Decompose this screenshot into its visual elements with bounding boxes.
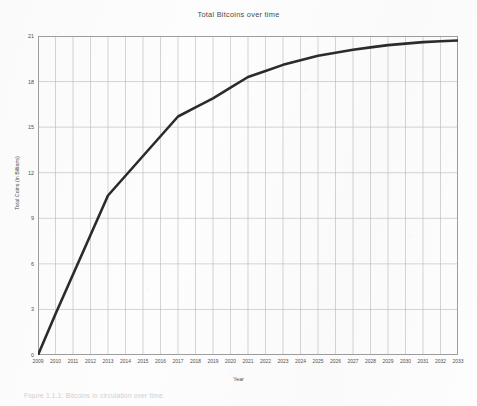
x-axis-tick-label: 2026 <box>325 359 347 364</box>
x-axis-tick-label: 2024 <box>290 359 312 364</box>
y-axis-tick-label: 18 <box>18 79 34 85</box>
x-axis-tick-label: 2018 <box>185 359 207 364</box>
figure-caption: Figure 1.1.1: Bitcoins in circulation ov… <box>24 392 454 399</box>
x-axis-tick-label: 2030 <box>395 359 417 364</box>
y-axis-tick-label: 15 <box>18 124 34 130</box>
plot-area <box>38 36 458 355</box>
x-axis-tick-label: 2010 <box>45 359 67 364</box>
x-axis-tick-label: 2029 <box>377 359 399 364</box>
x-axis-tick-label: 2015 <box>132 359 154 364</box>
y-axis-tick-label: 3 <box>18 306 34 312</box>
x-axis-tick-label: 2017 <box>167 359 189 364</box>
x-axis-title: Year <box>0 376 477 382</box>
x-axis-tick-label: 2032 <box>430 359 452 364</box>
x-axis-tick-label: 2016 <box>150 359 172 364</box>
x-axis-tick-label: 2009 <box>27 359 49 364</box>
y-axis-tick-label: 9 <box>18 215 34 221</box>
y-axis-tick-label: 21 <box>18 33 34 39</box>
x-axis-tick-label: 2027 <box>342 359 364 364</box>
y-axis-tick-label: 12 <box>18 170 34 176</box>
x-axis-tick-label: 2012 <box>80 359 102 364</box>
x-axis-tick-label: 2019 <box>202 359 224 364</box>
vertical-gridlines <box>56 36 459 355</box>
chart-canvas <box>38 36 458 355</box>
x-axis-tick-label: 2033 <box>447 359 469 364</box>
x-axis-tick-label: 2023 <box>272 359 294 364</box>
chart-title: Total Bitcoins over time <box>0 10 477 19</box>
x-axis-tick-label: 2013 <box>97 359 119 364</box>
x-axis-tick-label: 2025 <box>307 359 329 364</box>
x-axis-tick-label: 2011 <box>62 359 84 364</box>
x-axis-tick-label: 2031 <box>412 359 434 364</box>
x-axis-tick-label: 2020 <box>220 359 242 364</box>
x-axis-tick-label: 2021 <box>237 359 259 364</box>
y-axis-tick-label: 6 <box>18 261 34 267</box>
x-axis-tick-label: 2022 <box>255 359 277 364</box>
x-axis-tick-label: 2028 <box>360 359 382 364</box>
y-axis-tick-label: 0 <box>18 352 34 358</box>
chart-page: Total Bitcoins over time 211815129630 20… <box>0 0 477 406</box>
y-axis-title: Total Coins (in Billions) <box>14 128 20 238</box>
x-axis-tick-label: 2014 <box>115 359 137 364</box>
